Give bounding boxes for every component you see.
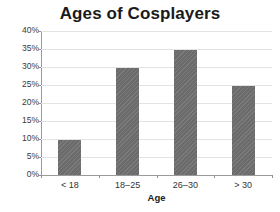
x-tick-mark: [272, 175, 273, 178]
y-tick-label: 40%: [5, 26, 39, 35]
x-tick-label: 18–25: [98, 180, 158, 191]
y-tick-label: 20%: [5, 98, 39, 107]
x-tick-label: < 18: [40, 180, 100, 191]
y-tick-label: 35%: [5, 44, 39, 53]
bars: [41, 31, 272, 175]
x-tick-mark: [214, 175, 215, 178]
bar: [116, 68, 139, 175]
plot-area: [41, 31, 272, 175]
bar: [58, 140, 81, 175]
bar-chart: Ages of Cosplayers 0%5%10%15%20%25%30%35…: [0, 0, 280, 212]
y-tick-label: 30%: [5, 62, 39, 71]
x-tick-mark: [157, 175, 158, 178]
chart-title: Ages of Cosplayers: [0, 4, 280, 24]
x-tick-label: 26–30: [155, 180, 215, 191]
bar: [232, 86, 255, 175]
y-tick-label: 25%: [5, 80, 39, 89]
x-tick-label: > 30: [213, 180, 273, 191]
y-tick-label: 0%: [5, 170, 39, 179]
x-tick-mark: [41, 175, 42, 178]
y-tick-label: 10%: [5, 134, 39, 143]
x-tick-mark: [99, 175, 100, 178]
x-axis-title: Age: [41, 192, 272, 203]
y-tick-label: 5%: [5, 152, 39, 161]
bar: [174, 50, 197, 175]
y-tick-label: 15%: [5, 116, 39, 125]
